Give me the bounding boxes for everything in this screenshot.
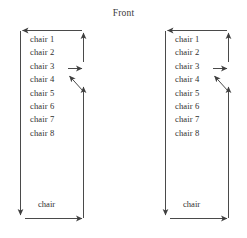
chair-label: chair 6 — [175, 100, 235, 113]
chair-label: chair 4 — [30, 73, 90, 86]
chair-label: chair 5 — [30, 87, 90, 100]
chair-list-left: chair 1 chair 2 chair 3 chair 4 chair 5 … — [30, 33, 90, 140]
chair-label: chair 7 — [175, 113, 235, 126]
chair-label: chair 6 — [30, 100, 90, 113]
chair-label: chair 3 — [30, 60, 90, 73]
chair-label: chair 1 — [30, 33, 90, 46]
chair-list-right: chair 1 chair 2 chair 3 chair 4 chair 5 … — [175, 33, 235, 140]
seating-panel-right: chair 1 chair 2 chair 3 chair 4 chair 5 … — [157, 0, 247, 238]
diagram-canvas: Front chair 1 chair 2 — [0, 0, 247, 238]
chair-label: chair 5 — [175, 87, 235, 100]
chair-label: chair 2 — [175, 46, 235, 59]
chair-bottom-label-right: chair — [175, 198, 235, 210]
chair-label: chair 8 — [175, 127, 235, 140]
chair-label: chair 8 — [30, 127, 90, 140]
chair-label: chair 4 — [175, 73, 235, 86]
chair-label: chair 2 — [30, 46, 90, 59]
seating-panel-left: chair 1 chair 2 chair 3 chair 4 chair 5 … — [12, 0, 104, 238]
chair-label: chair 7 — [30, 113, 90, 126]
chair-bottom-label-left: chair — [30, 198, 90, 210]
chair-label: chair 1 — [175, 33, 235, 46]
chair-label: chair 3 — [175, 60, 235, 73]
